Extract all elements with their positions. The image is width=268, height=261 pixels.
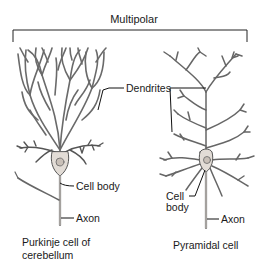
label-pyramidal-body: body — [166, 201, 189, 213]
purkinje-dendrites — [18, 48, 106, 150]
label-purkinje-cell-body: Cell body — [76, 180, 120, 192]
label-pyramidal-axon: Axon — [221, 213, 245, 225]
caption-pyramidal: Pyramidal cell — [173, 239, 238, 252]
caption-purkinje-line1: Purkinje cell of — [22, 236, 90, 249]
label-dendrites: Dendrites — [126, 82, 171, 94]
caption-purkinje-line2: cerebellum — [22, 249, 73, 261]
purkinje-cell — [15, 48, 106, 225]
label-purkinje-axon: Axon — [76, 212, 100, 224]
bracket — [13, 30, 247, 42]
